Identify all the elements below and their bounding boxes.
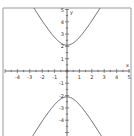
y-tick-label: -4 [59, 117, 64, 123]
y-tick-label: 4 [61, 19, 64, 25]
y-tick-label: 5 [61, 7, 64, 13]
y-tick-label: 3 [61, 31, 64, 37]
axis-ticks: -4-3-2-11234554321-1-2-3-4 [5, 7, 131, 133]
x-tick-label: 1 [78, 74, 81, 80]
y-tick-label: 1 [61, 56, 64, 62]
hyperbola-plot: -4-3-2-11234554321-1-2-3-4 x y [0, 0, 134, 136]
x-tick-label: -4 [15, 74, 20, 80]
y-axis-label: y [70, 9, 73, 16]
x-tick-label: 5 [127, 74, 130, 80]
y-tick-label: -1 [59, 80, 64, 86]
x-tick-label: -3 [27, 74, 32, 80]
x-tick-label: 3 [103, 74, 106, 80]
x-tick-label: -2 [40, 74, 45, 80]
x-tick-label: -1 [52, 74, 57, 80]
x-axis-label: x [126, 62, 129, 68]
x-tick-label: 2 [90, 74, 93, 80]
x-tick-label: 4 [115, 74, 118, 80]
y-tick-label: -3 [59, 105, 64, 111]
